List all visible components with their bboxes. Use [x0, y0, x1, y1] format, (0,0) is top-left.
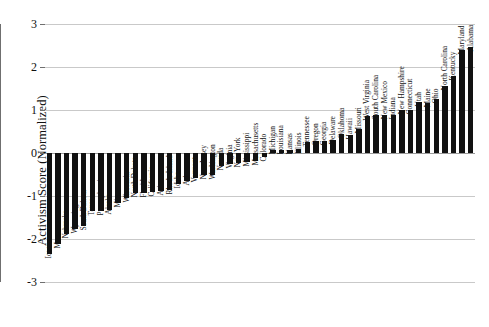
y-tick-label: 0	[31, 146, 37, 161]
bar-group: Montana	[55, 24, 60, 282]
bar-group: New York	[236, 24, 241, 282]
bar[interactable]	[47, 153, 52, 254]
bar-group: Vermont	[193, 24, 198, 282]
bar-category-label: Wisconsin	[122, 171, 129, 202]
bar-category-label: North Dakota	[131, 157, 138, 197]
bar-category-label: Connecticut	[406, 79, 413, 115]
y-tick-label: -1	[27, 189, 37, 204]
bar-category-label: Idaho	[174, 172, 181, 189]
bar-category-label: Iowa	[45, 244, 52, 259]
bar-group: Louisiana	[279, 24, 284, 282]
bar-category-label: Mississippi	[243, 133, 250, 167]
bar-group: New Mexico	[382, 24, 387, 282]
bar-group: South Carolina	[373, 24, 378, 282]
bar-series: IowaMontanaNebraskaWyomingSouth DakotaTe…	[45, 24, 475, 282]
bar-group: Maryland	[459, 24, 464, 282]
bar[interactable]	[434, 99, 439, 153]
bar-group: Arizona	[158, 24, 163, 282]
bar-category-label: Arizona	[157, 171, 164, 195]
bar-category-label: Delaware	[329, 116, 336, 144]
bar[interactable]	[382, 115, 387, 153]
bar-group: Iowa	[47, 24, 52, 282]
bar-group: Pennsylvania	[98, 24, 103, 282]
bar-group: Florida	[141, 24, 146, 282]
bar-category-label: West Virginia	[363, 80, 370, 120]
bar[interactable]	[468, 47, 473, 153]
bar-group: Alabama	[468, 24, 473, 282]
bar-group: Utah	[416, 24, 421, 282]
y-tick-label: 2	[31, 60, 37, 75]
bar-group: Colorado	[262, 24, 267, 282]
bar-group: Missouri	[356, 24, 361, 282]
y-tick-label: -2	[27, 232, 37, 247]
bar-category-label: New York	[234, 138, 241, 168]
bar-group: California	[150, 24, 155, 282]
bar[interactable]	[451, 76, 456, 153]
bar-category-label: Wyoming	[71, 204, 78, 233]
bar-group: Delaware	[330, 24, 335, 282]
bar[interactable]	[365, 116, 370, 153]
bar-category-label: Illinois	[294, 132, 301, 153]
bar-category-label: Vermont	[191, 157, 198, 182]
y-tick-label: 1	[31, 103, 37, 118]
bar[interactable]	[416, 102, 421, 153]
bar-category-label: Colorado	[260, 134, 267, 162]
bar[interactable]	[442, 86, 447, 153]
bar-category-label: Indiana	[389, 97, 396, 119]
bar-group: Maine	[425, 24, 430, 282]
bar-category-label: Maryland	[458, 25, 465, 54]
bar-category-label: South Carolina	[372, 75, 379, 120]
bar-category-label: Alabama	[466, 25, 473, 52]
y-tick-label: -3	[27, 275, 37, 290]
bar-group: Alaska	[107, 24, 112, 282]
y-axis-line	[0, 24, 1, 282]
bar-group: Washington	[210, 24, 215, 282]
bar-group: Kansas	[287, 24, 292, 282]
bar-category-label: Alaska	[105, 194, 112, 215]
bar-category-label: Louisiana	[277, 125, 284, 154]
bar-group: North Dakota	[133, 24, 138, 282]
bar[interactable]	[391, 115, 396, 153]
bar-group: Arkansas	[184, 24, 189, 282]
bar-group: Ohio	[434, 24, 439, 282]
bar-group: Rhode Island	[167, 24, 172, 282]
bar-group: New Hampshire	[399, 24, 404, 282]
bar[interactable]	[408, 110, 413, 153]
bar-group: Oklahoma	[339, 24, 344, 282]
bar-category-label: Oklahoma	[337, 108, 344, 139]
bar-group: West Virginia	[365, 24, 370, 282]
bar-category-label: California	[148, 166, 155, 196]
bar-group: Minnesota	[115, 24, 120, 282]
bar-category-label: New Mexico	[380, 81, 387, 119]
y-tick-label: 3	[31, 17, 37, 32]
bar-category-label: Nebraska	[62, 210, 69, 238]
bar-category-label: Georgia	[320, 122, 327, 146]
bar-group: Wisconsin	[124, 24, 129, 282]
bar[interactable]	[459, 50, 464, 153]
bar-group: Illinois	[296, 24, 301, 282]
bar-group: Tennessee	[305, 24, 310, 282]
bar-group: Wyoming	[72, 24, 77, 282]
bar-category-label: Washington	[208, 144, 215, 179]
bar[interactable]	[399, 110, 404, 153]
bar-category-label: Minnesota	[114, 176, 121, 207]
bar-group: Mississippi	[244, 24, 249, 282]
bar[interactable]	[425, 103, 430, 153]
bar-category-label: Texas	[88, 199, 95, 216]
bar[interactable]	[373, 115, 378, 153]
bar-group: Indiana	[391, 24, 396, 282]
bar-group: Massachusetts	[253, 24, 258, 282]
bar-category-label: Utah	[415, 92, 422, 106]
bar-category-label: Ohio	[432, 88, 439, 103]
bar-group: Connecticut	[408, 24, 413, 282]
bar-group: New Jersey	[201, 24, 206, 282]
bar-category-label: Nevada	[217, 148, 224, 171]
bar-category-label: Kentucky	[449, 51, 456, 80]
gridline	[45, 282, 475, 283]
bar-group: South Dakota	[81, 24, 86, 282]
bar-group: Nebraska	[64, 24, 69, 282]
bar-category-label: Massachusetts	[251, 122, 258, 165]
bar-category-label: New Jersey	[200, 145, 207, 179]
activism-score-bar-chart: Activism Score (Normalized) 3210-1-2-3 I…	[0, 0, 489, 327]
bar-category-label: Maine	[423, 89, 430, 108]
